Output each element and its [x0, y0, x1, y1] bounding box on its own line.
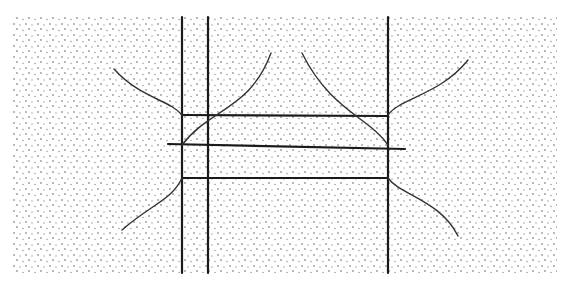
stipple-field: [12, 17, 557, 273]
stippled-line-diagram: [0, 0, 570, 286]
